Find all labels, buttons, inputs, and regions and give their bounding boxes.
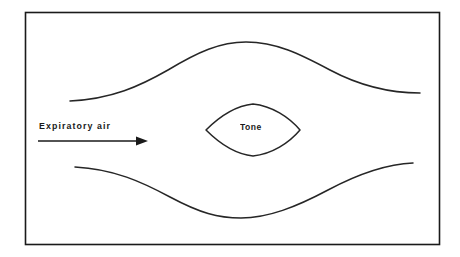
expiratory-air-label: Expiratory air — [39, 120, 111, 131]
lower-vocal-tract-wall — [75, 163, 413, 218]
tone-label: Tone — [240, 122, 262, 132]
diagram-canvas: Expiratory air Tone — [0, 0, 460, 257]
expiratory-air-arrow-head — [136, 137, 148, 146]
upper-vocal-tract-wall — [70, 42, 420, 101]
